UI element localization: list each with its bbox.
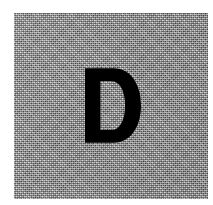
letter-d-glyph bbox=[85, 68, 141, 143]
gray-swatch-tile bbox=[14, 13, 208, 199]
scanned-image-canvas: D bbox=[0, 0, 213, 205]
